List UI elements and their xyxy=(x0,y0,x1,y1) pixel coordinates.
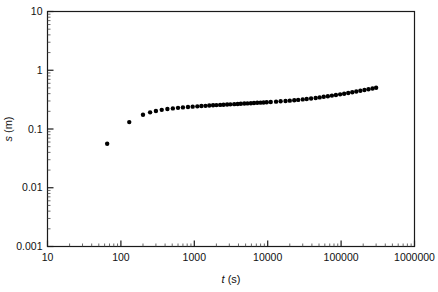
log-log-scatter-chart: 101001000100001000001000000 0.0010.010.1… xyxy=(0,0,438,292)
data-point xyxy=(154,109,158,113)
data-point xyxy=(346,91,350,95)
x-tick-label: 1000000 xyxy=(394,251,435,263)
data-point xyxy=(214,103,218,107)
data-point xyxy=(171,106,175,110)
x-tick-label: 100000 xyxy=(324,251,359,263)
data-point xyxy=(283,99,287,103)
data-point xyxy=(127,120,131,124)
data-point xyxy=(296,98,300,102)
x-tick-label: 1000 xyxy=(183,251,207,263)
y-tick-label: 1 xyxy=(37,64,43,76)
data-point xyxy=(288,98,292,102)
data-point xyxy=(322,95,326,99)
data-point xyxy=(313,96,317,100)
y-axis-tick-labels: 0.0010.010.1110 xyxy=(16,5,42,252)
data-point xyxy=(301,97,305,101)
data-point xyxy=(354,89,358,93)
y-axis-ticks xyxy=(48,12,54,247)
data-point xyxy=(228,102,232,106)
x-tick-label: 10 xyxy=(42,251,54,263)
x-axis-tick-labels: 101001000100001000001000000 xyxy=(42,251,435,263)
data-point xyxy=(326,94,330,98)
data-point xyxy=(362,88,366,92)
data-point xyxy=(105,142,109,146)
data-point xyxy=(274,99,278,103)
data-point xyxy=(358,89,362,93)
y-tick-label: 0.1 xyxy=(28,123,43,135)
data-point xyxy=(176,106,180,110)
data-point xyxy=(309,96,313,100)
x-tick-label: 100 xyxy=(112,251,130,263)
y-tick-label: 10 xyxy=(31,5,43,17)
chart-page: 101001000100001000001000000 0.0010.010.1… xyxy=(0,0,438,292)
data-point xyxy=(305,97,309,101)
data-point xyxy=(278,99,282,103)
data-point xyxy=(269,100,273,104)
data-point xyxy=(148,110,152,114)
data-point xyxy=(190,104,194,108)
x-tick-label: 10000 xyxy=(253,251,282,263)
data-point xyxy=(350,90,354,94)
y-tick-label: 0.01 xyxy=(22,181,43,193)
data-point xyxy=(165,107,169,111)
data-point xyxy=(317,95,321,99)
data-point xyxy=(342,91,346,95)
y-axis-title: s (m) xyxy=(2,116,14,141)
data-point-series xyxy=(105,86,378,146)
data-point xyxy=(374,86,378,90)
data-point xyxy=(292,98,296,102)
y-tick-label: 0.001 xyxy=(16,240,42,252)
data-point xyxy=(203,104,207,108)
data-point xyxy=(334,93,338,97)
data-point xyxy=(160,108,164,112)
x-axis-ticks xyxy=(48,241,415,247)
x-axis-title: t (s) xyxy=(222,273,241,285)
data-point xyxy=(181,105,185,109)
data-point xyxy=(366,87,370,91)
plot-frame xyxy=(48,12,415,247)
data-point xyxy=(141,113,145,117)
data-point xyxy=(186,105,190,109)
data-point xyxy=(330,93,334,97)
data-point xyxy=(199,104,203,108)
data-point xyxy=(207,103,211,107)
data-point xyxy=(195,104,199,108)
data-point xyxy=(265,100,269,104)
data-point xyxy=(338,92,342,96)
